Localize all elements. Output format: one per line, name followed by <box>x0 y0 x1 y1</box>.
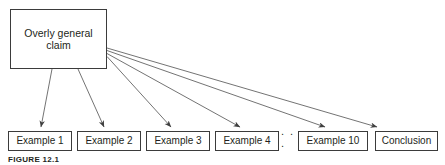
node-label: Example 3 <box>154 135 201 147</box>
node-overly-general-claim[interactable]: Overly general claim <box>10 9 107 69</box>
node-label: Conclusion <box>382 135 431 147</box>
arrow-claim-to-conclusion <box>107 48 377 127</box>
node-example-2[interactable]: Example 2 <box>77 131 141 151</box>
arrow-claim-to-example-10 <box>107 51 325 128</box>
node-example-3[interactable]: Example 3 <box>146 131 210 151</box>
node-label: Example 1 <box>16 135 63 147</box>
node-conclusion[interactable]: Conclusion <box>375 131 438 151</box>
ellipsis-separator: . . . <box>281 131 297 151</box>
node-label: Example 10 <box>307 135 360 147</box>
node-label: Example 2 <box>85 135 132 147</box>
node-example-4[interactable]: Example 4 <box>215 131 279 151</box>
node-label: Example 4 <box>223 135 270 147</box>
figure-diagram: Overly general claim Example 1 Example 2… <box>0 0 445 165</box>
arrow-claim-to-example-2 <box>78 69 104 127</box>
node-example-1[interactable]: Example 1 <box>8 131 72 151</box>
arrow-claim-to-example-3 <box>107 57 171 128</box>
node-label: Overly general claim <box>11 27 106 52</box>
arrow-claim-to-example-1 <box>41 69 52 127</box>
node-example-10[interactable]: Example 10 <box>298 131 368 151</box>
figure-caption: FIGURE 12.1 <box>8 155 59 164</box>
